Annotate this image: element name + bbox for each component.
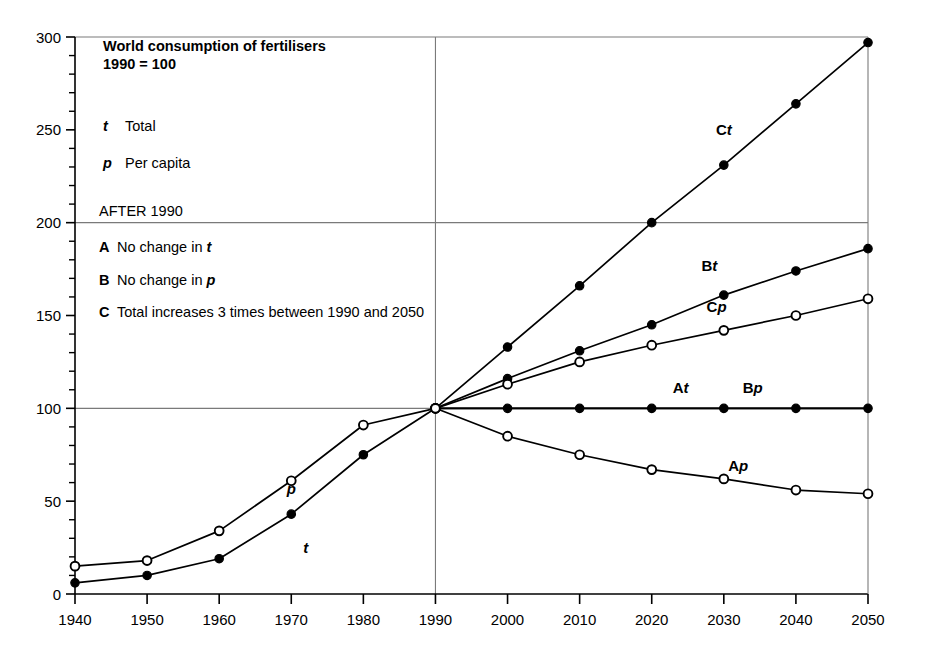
series-label-Ap: Ap xyxy=(728,457,748,474)
series-label-Ct: Ct xyxy=(716,121,733,138)
y-tick-label-50: 50 xyxy=(44,493,61,510)
data-point-t-1950[interactable] xyxy=(143,571,151,579)
y-tick-label-150: 150 xyxy=(36,307,61,324)
scenario-text-C: Total increases 3 times between 1990 and… xyxy=(117,304,424,320)
data-point-Bt-2040[interactable] xyxy=(792,267,800,275)
y-tick-label-250: 250 xyxy=(36,121,61,138)
data-point-Ct-2010[interactable] xyxy=(575,282,583,290)
x-tick-label-2020: 2020 xyxy=(635,611,668,628)
data-point-Ap-2050[interactable] xyxy=(864,489,873,498)
chart-background xyxy=(0,0,925,651)
scenario-symbol-B: p xyxy=(205,272,215,288)
data-point-Ct-2020[interactable] xyxy=(648,218,656,226)
data-point-t-1960[interactable] xyxy=(215,555,223,563)
data-point-p-1950[interactable] xyxy=(143,556,152,565)
legend-label-p: Per capita xyxy=(125,155,191,171)
chart-title: World consumption of fertilisers xyxy=(103,38,326,54)
data-point-Ct-2040[interactable] xyxy=(792,100,800,108)
data-point-Ap-2020[interactable] xyxy=(647,465,656,474)
chart-figure: 0501001502002503001940195019601970198019… xyxy=(0,0,925,651)
x-tick-label-2050: 2050 xyxy=(851,611,884,628)
data-point-Cp-2000[interactable] xyxy=(503,380,512,389)
legend-label-t: Total xyxy=(125,118,156,134)
data-point-t-1980[interactable] xyxy=(359,451,367,459)
scenario-heading: AFTER 1990 xyxy=(99,203,183,219)
x-tick-label-1950: 1950 xyxy=(130,611,163,628)
chart-subtitle: 1990 = 100 xyxy=(103,56,176,72)
data-point-t-1970[interactable] xyxy=(287,510,295,518)
x-tick-label-2010: 2010 xyxy=(563,611,596,628)
scenario-label-C: Total increases 3 times between 1990 and… xyxy=(117,304,424,320)
y-tick-label-200: 200 xyxy=(36,214,61,231)
data-point-Bt-2010[interactable] xyxy=(575,347,583,355)
data-point-Bt-2020[interactable] xyxy=(648,321,656,329)
data-point-t-1940[interactable] xyxy=(71,579,79,587)
x-tick-label-2000: 2000 xyxy=(491,611,524,628)
y-tick-label-0: 0 xyxy=(53,586,61,603)
y-tick-label-300: 300 xyxy=(36,29,61,46)
legend-key-p: p xyxy=(102,155,112,171)
series-label-Cp: Cp xyxy=(707,298,727,315)
series-label-symbol-Cp: p xyxy=(716,298,726,315)
data-point-Ap-2030[interactable] xyxy=(719,474,728,483)
data-point-p-1980[interactable] xyxy=(359,421,368,430)
series-label-symbol-Bp: p xyxy=(752,379,762,396)
data-point-Ap-2000[interactable] xyxy=(503,432,512,441)
series-label-symbol-Ap: p xyxy=(738,457,748,474)
data-point-Ct-2000[interactable] xyxy=(503,343,511,351)
series-label-scenario-Bt: B xyxy=(701,257,712,274)
data-point-Ap-2040[interactable] xyxy=(792,486,801,495)
x-tick-label-1990: 1990 xyxy=(419,611,452,628)
series-label-At: At xyxy=(673,379,690,396)
y-tick-label-100: 100 xyxy=(36,400,61,417)
x-tick-label-1970: 1970 xyxy=(275,611,308,628)
data-point-p-1940[interactable] xyxy=(71,562,80,571)
x-tick-label-2030: 2030 xyxy=(707,611,740,628)
x-tick-label-2040: 2040 xyxy=(779,611,812,628)
x-tick-label-1980: 1980 xyxy=(347,611,380,628)
scenario-key-A: A xyxy=(99,239,110,255)
data-point-Bt-2050[interactable] xyxy=(864,244,872,252)
series-label-scenario-At: A xyxy=(673,379,684,396)
x-tick-label-1940: 1940 xyxy=(58,611,91,628)
scenario-label-A: No change in t xyxy=(117,239,212,255)
data-point-p-1960[interactable] xyxy=(215,526,224,535)
scenario-key-C: C xyxy=(99,304,110,320)
data-point-Cp-2050[interactable] xyxy=(864,294,873,303)
data-point-Ap-2010[interactable] xyxy=(575,450,584,459)
series-label-Bp: Bp xyxy=(743,379,763,396)
scenario-key-B: B xyxy=(99,272,109,288)
series-label-scenario-Bp: B xyxy=(743,379,754,396)
data-point-Cp-2010[interactable] xyxy=(575,358,584,367)
scenario-text-B: No change in xyxy=(117,272,206,288)
data-point-Ct-2050[interactable] xyxy=(864,38,872,46)
series-label-scenario-Cp: C xyxy=(707,298,718,315)
fertiliser-consumption-line-chart: 0501001502002503001940195019601970198019… xyxy=(0,0,925,651)
data-point-Cp-2030[interactable] xyxy=(719,326,728,335)
data-point-Cp-2020[interactable] xyxy=(647,341,656,350)
scenario-label-B: No change in p xyxy=(117,272,215,288)
data-point-Ct-2030[interactable] xyxy=(720,161,728,169)
series-label-p: p xyxy=(286,480,296,497)
series-label-scenario-Ap: A xyxy=(728,457,739,474)
series-label-Bt: Bt xyxy=(701,257,718,274)
scenario-text-A: No change in xyxy=(117,239,206,255)
data-point-Ap-1990[interactable] xyxy=(431,404,440,413)
x-tick-label-1960: 1960 xyxy=(202,611,235,628)
data-point-Cp-2040[interactable] xyxy=(792,311,801,320)
series-label-scenario-Ct: C xyxy=(716,121,727,138)
